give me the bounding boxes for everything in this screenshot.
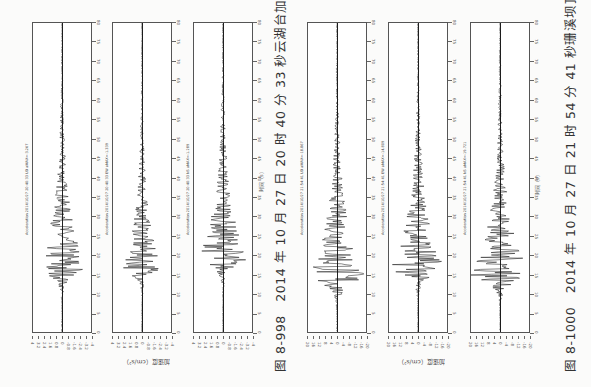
tick-mark xyxy=(86,336,87,339)
tick-mark xyxy=(172,336,173,339)
tick-label: 40 xyxy=(534,176,539,181)
tick-label: 30 xyxy=(257,214,262,219)
tick-label: 60 xyxy=(534,98,539,103)
waveform xyxy=(33,23,91,332)
tick-mark xyxy=(355,336,356,339)
tick-mark xyxy=(56,336,57,339)
seismogram-frame-ew xyxy=(388,22,448,333)
seismogram-frame-ew xyxy=(112,22,172,333)
tick-label: 2.4 xyxy=(203,342,208,348)
tick-mark xyxy=(400,336,401,339)
figure-caption: 图 8-1000 2014 年 10 月 27 日 21 时 54 分 41 秒… xyxy=(560,0,579,372)
tick-mark xyxy=(361,336,362,339)
tick-mark xyxy=(494,336,495,339)
tick-label: 30 xyxy=(534,214,539,219)
tick-label: 55 xyxy=(371,117,376,122)
tick-mark xyxy=(136,336,137,339)
tick-label: 40 xyxy=(176,176,181,181)
waveform xyxy=(471,23,529,332)
tick-label: 3.2 xyxy=(197,342,202,348)
tick-mark xyxy=(343,336,344,339)
tick-label: -2.4 xyxy=(78,342,83,350)
tick-label: 4 xyxy=(110,342,115,345)
tick-label: 8 xyxy=(486,342,491,345)
tick-label: 60 xyxy=(176,98,181,103)
tick-label: 16 xyxy=(311,342,316,347)
tick-label: 10 xyxy=(257,292,262,297)
tick-label: 60 xyxy=(452,98,457,103)
tick-label: -0.8 xyxy=(66,342,71,350)
tick-label: 15 xyxy=(452,273,457,278)
time-axis: 80757065605550454035302520151050 xyxy=(448,20,458,335)
tick-mark xyxy=(166,336,167,339)
tick-label: 50 xyxy=(176,137,181,142)
tick-mark xyxy=(313,336,314,339)
tick-label: 35 xyxy=(534,195,539,200)
tick-label: 25 xyxy=(257,234,262,239)
tick-label: 0 xyxy=(60,342,65,345)
tick-mark xyxy=(124,336,125,339)
tick-label: 0 xyxy=(96,331,101,334)
channel-label: Acceleration 2014/10/27 20:40:33 NS aMAX… xyxy=(186,144,190,235)
tick-mark xyxy=(241,336,242,339)
amplitude-axis: 201612840-4-8-12-16-20 xyxy=(307,336,367,354)
tick-label: 35 xyxy=(96,195,101,200)
tick-label: -20 xyxy=(528,342,533,349)
tick-mark xyxy=(205,336,206,339)
tick-mark xyxy=(223,336,224,339)
channel-label: Acceleration 2014/10/27 20:40:33 UD aMAX… xyxy=(25,143,29,235)
tick-label: -4 xyxy=(422,342,427,346)
tick-label: 5 xyxy=(257,312,262,315)
tick-mark xyxy=(211,336,212,339)
tick-mark xyxy=(476,336,477,339)
tick-label: 55 xyxy=(96,117,101,122)
tick-label: -2.4 xyxy=(239,342,244,350)
tick-label: 12 xyxy=(398,342,403,347)
tick-mark xyxy=(217,336,218,339)
tick-mark xyxy=(367,336,368,339)
tick-label: 55 xyxy=(534,117,539,122)
tick-mark xyxy=(325,336,326,339)
tick-label: 10 xyxy=(534,292,539,297)
tick-label: -8 xyxy=(428,342,433,346)
tick-label: 0 xyxy=(221,342,226,345)
tick-label: 20 xyxy=(176,253,181,258)
tick-label: 10 xyxy=(371,292,376,297)
tick-mark xyxy=(394,336,395,339)
tick-label: 65 xyxy=(176,78,181,83)
tick-label: 0 xyxy=(176,331,181,334)
tick-label: 20 xyxy=(371,253,376,258)
time-axis: 80757065605550454035302520151050 xyxy=(367,20,377,335)
tick-label: 50 xyxy=(96,137,101,142)
tick-mark xyxy=(424,336,425,339)
tick-mark xyxy=(199,336,200,339)
tick-label: 75 xyxy=(534,39,539,44)
tick-label: 4 xyxy=(492,342,497,345)
tick-label: 75 xyxy=(452,39,457,44)
tick-mark xyxy=(253,336,254,339)
tick-mark xyxy=(44,336,45,339)
channel-label: Acceleration 2014/10/27 20:40:33 EW aMAX… xyxy=(105,143,109,235)
seismogram-frame-ud xyxy=(32,22,92,333)
seismogram-frame-ns xyxy=(193,22,253,333)
tick-mark xyxy=(530,336,531,339)
tick-label: 30 xyxy=(96,214,101,219)
tick-label: 45 xyxy=(371,156,376,161)
tick-label: 50 xyxy=(371,137,376,142)
tick-mark xyxy=(92,336,93,339)
tick-mark xyxy=(349,336,350,339)
tick-label: -8 xyxy=(347,342,352,346)
tick-label: 25 xyxy=(176,234,181,239)
tick-label: 25 xyxy=(452,234,457,239)
tick-mark xyxy=(38,336,39,339)
tick-label: 2.4 xyxy=(42,342,47,348)
tick-label: 65 xyxy=(257,78,262,83)
tick-mark xyxy=(412,336,413,339)
tick-mark xyxy=(470,336,471,339)
tick-label: 45 xyxy=(257,156,262,161)
tick-label: 70 xyxy=(176,59,181,64)
tick-mark xyxy=(74,336,75,339)
tick-label: 0 xyxy=(371,331,376,334)
tick-mark xyxy=(482,336,483,339)
tick-label: 16 xyxy=(474,342,479,347)
